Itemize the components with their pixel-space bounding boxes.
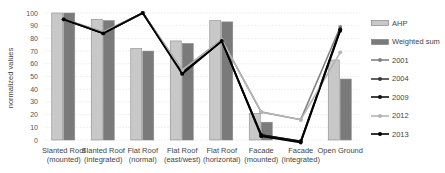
legend-label: 2001 [392, 56, 409, 65]
x-tick-label: Flat Roof(horizontal) [203, 146, 241, 164]
x-tick-label: Slanted Roof(integrated) [82, 146, 126, 164]
x-tick-label: Open Ground [318, 146, 363, 155]
legend-item: 2009 [370, 88, 445, 107]
marker-2013 [299, 141, 303, 145]
marker-2013 [62, 17, 66, 21]
legend-label: AHP [392, 19, 407, 28]
y-axis-ticks: 0102030405060708090100 [26, 10, 38, 144]
y-tick-label: 100 [26, 10, 38, 17]
bar-weighted-sum [182, 43, 193, 140]
marker-2013 [141, 11, 145, 15]
y-tick-label: 10 [30, 124, 38, 131]
marker-2013 [259, 134, 263, 138]
legend-item: AHP [370, 14, 445, 33]
legend-item: 2004 [370, 70, 445, 89]
x-axis-labels: Slanted Roof(mounted)Slanted Roof(integr… [42, 146, 363, 164]
bar-ahp [210, 21, 221, 140]
line-marker-icon [370, 130, 390, 138]
legend-item: 2012 [370, 107, 445, 126]
y-tick-label: 50 [30, 73, 38, 80]
legend-label: 2012 [392, 111, 409, 120]
legend-item: 2013 [370, 125, 445, 144]
bar-weighted-sum [143, 51, 154, 140]
x-tick-label: Flat Roof(normal) [128, 146, 159, 164]
legend-label: 2013 [392, 130, 409, 139]
marker-2012 [338, 50, 342, 54]
legend-item: 2001 [370, 51, 445, 70]
marker-2012 [259, 110, 263, 114]
y-tick-label: 80 [30, 35, 38, 42]
bar-swatch-icon [370, 19, 390, 27]
bar-ahp [52, 13, 63, 140]
line-marker-icon [370, 75, 390, 83]
x-tick-label: Facade(mounted) [244, 146, 279, 164]
marker-2013 [338, 29, 342, 33]
y-tick-label: 20 [30, 111, 38, 118]
legend: AHPWeighted sum20012004200920122013 [370, 14, 445, 144]
marker-2013 [220, 39, 224, 43]
legend-label: 2009 [392, 93, 409, 102]
bar-weighted-sum [64, 13, 75, 140]
legend-label: Weighted sum [392, 37, 440, 46]
y-tick-label: 70 [30, 48, 38, 55]
y-tick-label: 40 [30, 86, 38, 93]
bar-ahp [131, 49, 142, 140]
bar-swatch-icon [370, 38, 390, 46]
y-tick-label: 60 [30, 60, 38, 67]
bar-weighted-sum [340, 79, 351, 140]
legend-item: Weighted sum [370, 33, 445, 52]
marker-2012 [299, 118, 303, 122]
marker-2013 [180, 72, 184, 76]
line-marker-icon [370, 56, 390, 64]
x-tick-label: Flat Roof(east/west) [164, 146, 201, 164]
bar-ahp [328, 60, 339, 140]
y-tick-label: 0 [34, 137, 38, 144]
bar-ahp [91, 19, 102, 140]
marker-2013 [101, 31, 105, 35]
x-tick-label: Facade(integrated) [282, 146, 321, 164]
y-tick-label: 30 [30, 98, 38, 105]
line-marker-icon [370, 112, 390, 120]
y-axis-label: normalized values [6, 48, 15, 109]
bar-weighted-sum [103, 21, 114, 140]
x-tick-label: Slanted Roof(mounted) [42, 146, 86, 164]
legend-label: 2004 [392, 74, 409, 83]
line-marker-icon [370, 93, 390, 101]
y-tick-label: 90 [30, 22, 38, 29]
